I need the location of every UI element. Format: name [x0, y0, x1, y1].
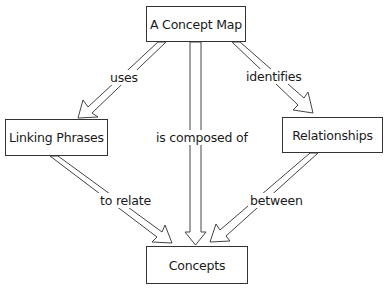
- node-relationships-label: Relationships: [292, 128, 373, 143]
- link-label-identifies: identifies: [244, 69, 303, 84]
- node-concepts: Concepts: [146, 246, 248, 284]
- link-label-is-composed-of: is composed of: [154, 130, 250, 145]
- node-linking-phrases-label: Linking Phrases: [9, 130, 104, 145]
- node-linking-phrases: Linking Phrases: [5, 119, 108, 156]
- link-label-between: between: [248, 193, 305, 208]
- node-concepts-label: Concepts: [169, 258, 226, 273]
- node-relationships: Relationships: [282, 117, 383, 153]
- link-label-uses: uses: [108, 70, 140, 85]
- node-concept-map: A Concept Map: [146, 6, 246, 42]
- link-label-to-relate: to relate: [98, 193, 153, 208]
- node-concept-map-label: A Concept Map: [150, 17, 242, 32]
